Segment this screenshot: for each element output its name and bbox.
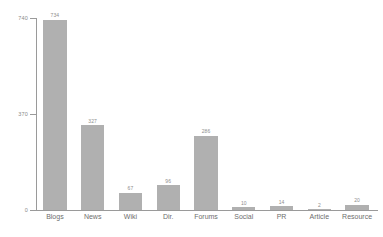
y-tick-label: 740 [2,15,28,21]
bar-group[interactable]: 734 [43,18,66,210]
bar[interactable] [43,20,66,210]
bar[interactable] [119,193,142,210]
category-label-blogs: Blogs [36,213,74,220]
bar-value-label: 2 [308,202,331,208]
bar[interactable] [81,125,104,210]
category-label-wiki: Wiki [112,213,150,220]
x-axis-line [30,210,378,211]
bar-group[interactable]: 14 [270,18,293,210]
bar-chart: 0370740 73432767962861014220 BlogsNewsWi… [0,0,383,237]
bar-group[interactable]: 286 [194,18,217,210]
bar[interactable] [232,207,255,210]
bar-value-label: 10 [232,200,255,206]
bar-value-label: 327 [81,118,104,124]
bar[interactable] [157,185,180,210]
bar-value-label: 96 [157,178,180,184]
bar[interactable] [308,209,331,210]
bar-group[interactable]: 327 [81,18,104,210]
bar[interactable] [194,136,217,210]
bar-group[interactable]: 10 [232,18,255,210]
bar-group[interactable]: 67 [119,18,142,210]
bar-value-label: 286 [194,128,217,134]
bar-value-label: 67 [119,185,142,191]
bar-group[interactable]: 96 [157,18,180,210]
bar-group[interactable]: 20 [345,18,368,210]
category-label-news: News [74,213,112,220]
bar[interactable] [345,205,368,210]
y-tick-label: 370 [2,111,28,117]
category-label-article: Article [300,213,338,220]
plot-area: 73432767962861014220 [36,18,376,210]
bar-value-label: 14 [270,199,293,205]
category-label-social: Social [225,213,263,220]
category-label-pr: PR [263,213,301,220]
bar-value-label: 20 [345,197,368,203]
category-label-forums: Forums [187,213,225,220]
bar-group[interactable]: 2 [308,18,331,210]
y-tick-mark [30,210,36,211]
bar-value-label: 734 [43,12,66,18]
category-label-resource: Resource [338,213,376,220]
bar[interactable] [270,206,293,210]
category-label-dir: Dir. [149,213,187,220]
y-tick-label: 0 [2,207,28,213]
